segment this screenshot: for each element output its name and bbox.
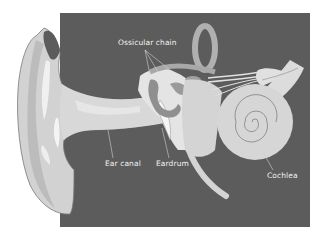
label-ossicular-chain: Ossicular chain: [118, 39, 177, 47]
label-cochlea: Cochlea: [267, 172, 298, 180]
cochlea: [217, 84, 293, 160]
label-ear-canal: Ear canal: [105, 160, 141, 168]
label-eardrum: Eardrum: [156, 160, 189, 168]
ear-illustration: [0, 0, 329, 241]
ear-anatomy-diagram: Ossicular chain Ear canal Eardrum Cochle…: [0, 0, 329, 241]
